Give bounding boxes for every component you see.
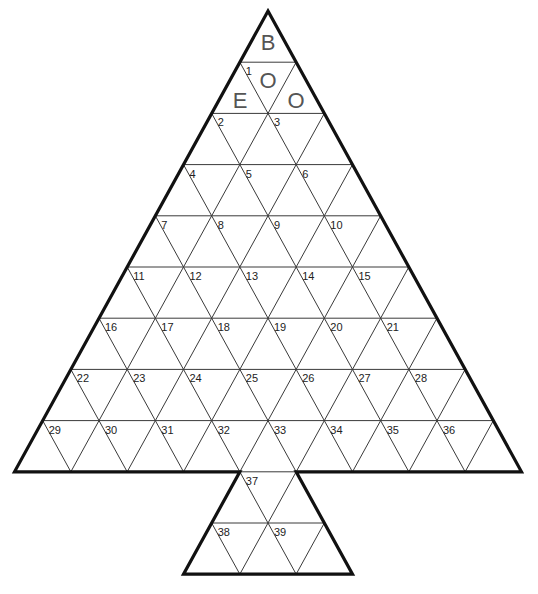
cell-number: 39: [274, 526, 286, 538]
tree-outline-path: [15, 11, 522, 574]
cell-number: 1: [246, 65, 252, 77]
cell-number: 33: [274, 424, 286, 436]
tree-outline: [15, 11, 522, 574]
cell-number: 14: [302, 270, 314, 282]
trunk-diagonal: [296, 523, 324, 574]
cell-number: 10: [330, 219, 342, 231]
cell-number: 9: [274, 219, 280, 231]
diagonal-line: [465, 421, 493, 472]
cell-number: 6: [302, 168, 308, 180]
cell-number: 35: [387, 424, 399, 436]
cell-number: 34: [330, 424, 342, 436]
tree-triangle-grid: BOEO 12345678910111213141516171819202122…: [0, 0, 538, 594]
diagonal-line: [240, 216, 381, 472]
cell-number: 17: [161, 321, 173, 333]
cell-number: 4: [190, 168, 196, 180]
cell-number: 16: [105, 321, 117, 333]
cell-number: 38: [218, 526, 230, 538]
cell-number: 31: [161, 424, 173, 436]
cell-number: 37: [246, 475, 258, 487]
cell-number: 11: [133, 270, 144, 282]
tree-puzzle-diagram: BOEO 12345678910111213141516171819202122…: [0, 0, 538, 594]
cell-number: 3: [274, 116, 280, 128]
cell-number: 24: [190, 372, 202, 384]
clue-letter: O: [259, 68, 276, 93]
cell-number: 32: [218, 424, 230, 436]
cell-number: 21: [387, 321, 399, 333]
cell-number: 8: [218, 219, 224, 231]
cell-number: 18: [218, 321, 230, 333]
cell-number: 20: [330, 321, 342, 333]
cell-number: 22: [77, 372, 89, 384]
cell-number: 26: [302, 372, 314, 384]
cell-number: 25: [246, 372, 258, 384]
cell-number: 15: [358, 270, 370, 282]
diagonal-line: [99, 318, 183, 472]
cell-number: 23: [133, 372, 145, 384]
cell-number: 12: [190, 270, 202, 282]
cell-number: 5: [246, 168, 252, 180]
grid-lines: [43, 62, 494, 574]
cell-number: 2: [218, 116, 224, 128]
cell-number: 28: [415, 372, 427, 384]
clue-letter: O: [287, 88, 304, 113]
cell-number: 13: [246, 270, 258, 282]
diagonal-line: [212, 113, 409, 471]
cell-number: 36: [443, 424, 455, 436]
cell-number: 7: [161, 219, 167, 231]
letters-layer: BOEO: [233, 30, 305, 113]
clue-letter: E: [233, 88, 248, 113]
cell-number: 27: [358, 372, 370, 384]
diagonal-line: [127, 113, 324, 471]
clue-letter: B: [261, 30, 276, 55]
diagonal-line: [352, 318, 436, 472]
cell-number: 19: [274, 321, 286, 333]
cell-number: 30: [105, 424, 117, 436]
cell-number: 29: [49, 424, 61, 436]
